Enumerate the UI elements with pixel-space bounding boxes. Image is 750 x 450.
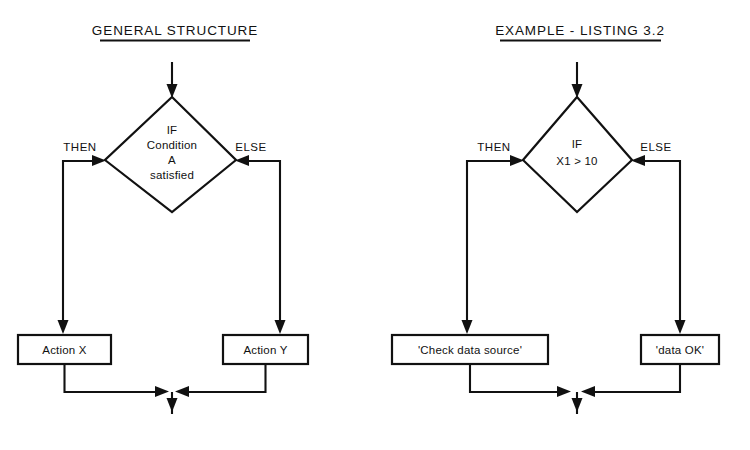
- action-box-else-label-example: 'data OK': [656, 344, 704, 356]
- action-box-then-label-example: 'Check data source': [418, 344, 522, 356]
- branch-label-else-example: ELSE: [640, 141, 671, 153]
- branch-label-then-example: THEN: [477, 141, 510, 153]
- action-box-then-label: Action X: [42, 344, 87, 356]
- then-arrowhead-down-icon-example: [462, 320, 473, 334]
- flowchart-canvas: GENERAL STRUCTURE IF Condition A satisfi…: [0, 0, 750, 450]
- decision-text-line-4: satisfied: [150, 169, 194, 181]
- decision-text-line-2: Condition: [147, 139, 197, 151]
- branch-label-else: ELSE: [235, 141, 266, 153]
- else-arrowhead-down-icon-example: [675, 320, 686, 334]
- merge-arrowhead-right-icon-example: [557, 386, 571, 397]
- decision-text-line-2-example: X1 > 10: [556, 155, 597, 167]
- panel-title-example-listing: EXAMPLE - LISTING 3.2: [495, 23, 665, 38]
- panel-example-listing: EXAMPLE - LISTING 3.2 IF X1 > 10 THEN 'C…: [392, 23, 719, 414]
- merge-arrowhead-left-icon-example: [581, 386, 595, 397]
- merge-path-from-else: [184, 364, 266, 392]
- else-arrowhead-left-icon: [235, 155, 249, 166]
- merge-path-from-else-example: [590, 364, 680, 392]
- decision-text-line-1-example: IF: [572, 138, 583, 150]
- merge-path-from-then-example: [470, 364, 562, 392]
- decision-text-line-1: IF: [167, 124, 178, 136]
- panel-general-structure: GENERAL STRUCTURE IF Condition A satisfi…: [18, 23, 308, 414]
- flowchart-figure: GENERAL STRUCTURE IF Condition A satisfi…: [0, 0, 750, 450]
- branch-label-then: THEN: [63, 141, 96, 153]
- action-box-else-label: Action Y: [243, 344, 287, 356]
- decision-text-line-3: A: [168, 154, 176, 166]
- else-arrowhead-down-icon: [275, 320, 286, 334]
- else-arrowhead-left-icon-example: [631, 155, 645, 166]
- merge-path-from-then: [65, 364, 161, 392]
- then-arrowhead-down-icon: [58, 320, 69, 334]
- then-arrowhead-right-icon-example: [510, 155, 524, 166]
- then-arrowhead-right-icon: [92, 155, 106, 166]
- merge-arrowhead-right-icon: [155, 386, 169, 397]
- panel-title-general-structure: GENERAL STRUCTURE: [92, 23, 258, 38]
- merge-arrowhead-left-icon: [175, 386, 189, 397]
